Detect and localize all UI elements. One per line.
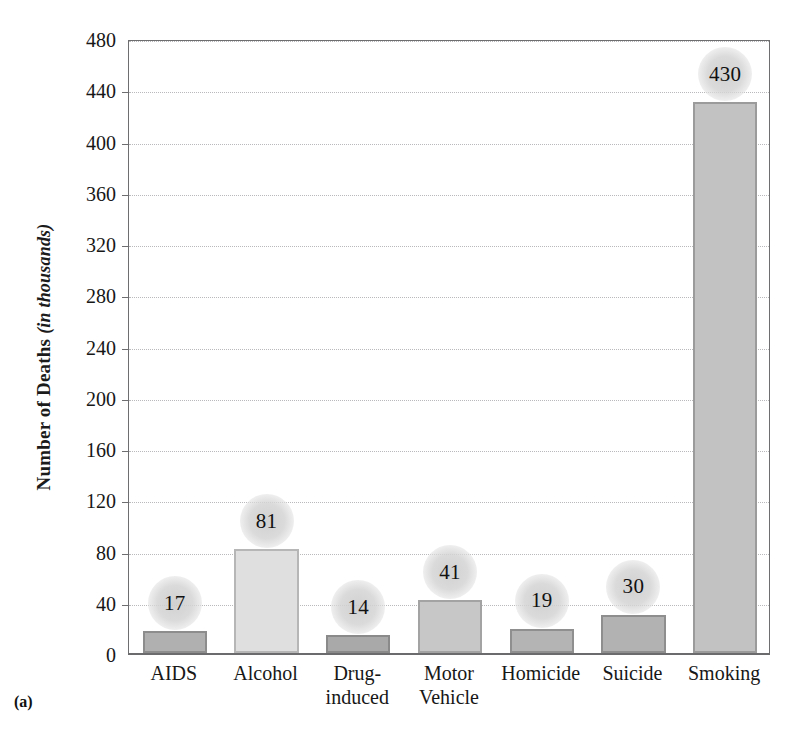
x-axis-category-label-line: Drug-: [333, 662, 381, 684]
bar-chart-figure: Number of Deaths (in thousands) 04080120…: [0, 0, 800, 735]
x-axis-category-label-line: Alcohol: [233, 662, 297, 684]
bar: [234, 549, 298, 653]
gridline: [129, 246, 769, 247]
x-axis-category-label: Smoking: [678, 662, 770, 686]
y-axis-tick-label: 320: [26, 235, 116, 255]
x-axis-category-label-line: Motor: [424, 662, 474, 684]
x-axis-category-label-line: Homicide: [501, 662, 580, 684]
y-axis-tick: [122, 349, 129, 350]
y-axis-tick-label: 200: [26, 389, 116, 409]
x-axis-category-label-line: induced: [311, 686, 403, 710]
bar-value-label: 17: [148, 576, 202, 630]
y-axis-tick: [122, 554, 129, 555]
gridline: [129, 92, 769, 93]
figure-caption: (a): [14, 693, 33, 711]
gridline: [129, 349, 769, 350]
y-axis-tick: [122, 144, 129, 145]
bar-value-label: 81: [240, 494, 294, 548]
y-axis-tick: [122, 297, 129, 298]
bar: [510, 629, 574, 653]
y-axis-tick: [122, 502, 129, 503]
x-axis-category-label: Homicide: [495, 662, 587, 686]
gridline: [129, 400, 769, 401]
x-axis-category-label: Drug-induced: [311, 662, 403, 709]
y-axis-tick-label: 400: [26, 133, 116, 153]
gridline: [129, 502, 769, 503]
y-axis-tick: [122, 400, 129, 401]
y-axis-tick-label: 40: [26, 594, 116, 614]
x-axis-category-label: AIDS: [128, 662, 220, 686]
bar-value-label: 19: [515, 574, 569, 628]
y-axis-tick: [122, 246, 129, 247]
bar-value-label: 30: [606, 560, 660, 614]
y-axis-tick: [122, 451, 129, 452]
x-axis-category-label: MotorVehicle: [403, 662, 495, 709]
y-axis-tick-label: 160: [26, 440, 116, 460]
x-axis-category-label-line: Vehicle: [403, 686, 495, 710]
bar: [693, 102, 757, 653]
bar-value-label: 14: [331, 580, 385, 634]
bar: [326, 635, 390, 653]
y-axis-tick-label: 360: [26, 184, 116, 204]
plot-area: 178114411930430: [128, 40, 770, 655]
gridline: [129, 195, 769, 196]
bar-value-label: 41: [423, 545, 477, 599]
gridline: [129, 144, 769, 145]
y-axis-tick: [122, 195, 129, 196]
x-axis-category-label-line: Suicide: [602, 662, 662, 684]
y-axis-tick-label: 120: [26, 491, 116, 511]
gridline: [129, 451, 769, 452]
bar: [418, 600, 482, 653]
bar-value-label: 430: [698, 47, 752, 101]
y-axis-tick-label: 440: [26, 81, 116, 101]
y-axis-tick-label: 480: [26, 30, 116, 50]
x-axis-category-label: Suicide: [587, 662, 679, 686]
y-axis-tick-label: 240: [26, 338, 116, 358]
y-axis-tick-label: 0: [26, 645, 116, 665]
y-axis-tick-label: 280: [26, 286, 116, 306]
x-axis-category-label-line: AIDS: [151, 662, 198, 684]
y-axis-tick: [122, 92, 129, 93]
gridline: [129, 297, 769, 298]
gridline: [129, 41, 769, 42]
bar: [601, 615, 665, 653]
y-axis-tick: [122, 605, 129, 606]
x-axis-category-label-line: Smoking: [688, 662, 760, 684]
y-axis-tick-label: 80: [26, 543, 116, 563]
x-axis-category-label: Alcohol: [220, 662, 312, 686]
bar: [143, 631, 207, 653]
